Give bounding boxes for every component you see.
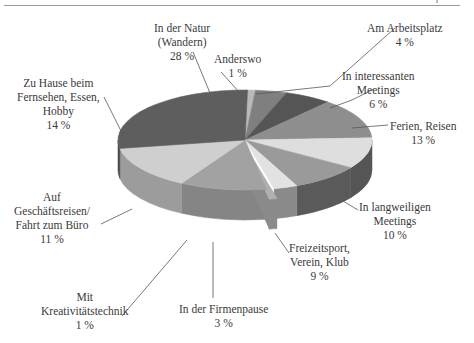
label-langweilige-meetings: In langweiligenMeetings10 % [359, 200, 431, 242]
label-geschaeftsreisen: AufGeschäftsreisen/Fahrt zum Büro11 % [14, 190, 90, 246]
leader-line [343, 201, 358, 210]
leader-line [104, 97, 123, 135]
pie-side [274, 186, 297, 219]
label-natur: In der Natur(Wandern)28 % [154, 21, 210, 63]
pie-slice [118, 90, 248, 148]
label-firmenpause: In der Firmenpause3 % [179, 302, 268, 330]
label-zu-hause: Zu Hause beimFernsehen, Essen,Hobby14 % [17, 76, 100, 132]
label-freizeitsport: Freizeitsport,Verein, Klub9 % [289, 241, 350, 283]
leader-line [101, 209, 132, 224]
leader-line [122, 240, 187, 316]
label-interessante-meetings: In interessantenMeetings6 % [342, 69, 415, 111]
leader-line [275, 233, 289, 253]
label-am-arbeitsplatz: Am Arbeitsplatz4 % [367, 21, 443, 49]
label-ferien-reisen: Ferien, Reisen13 % [390, 119, 456, 147]
label-anderswo: Anderswo1 % [214, 52, 261, 80]
label-kreativitaetstechnik: MitKreativitätstechnik1 % [41, 290, 129, 332]
